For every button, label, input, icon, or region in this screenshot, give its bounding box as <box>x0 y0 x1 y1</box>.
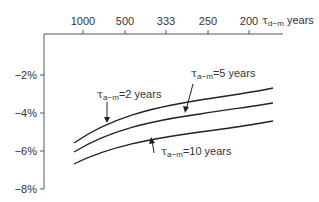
tick-label: 200 <box>240 15 258 27</box>
annotation-5-years: τa−m=5 years <box>191 67 256 81</box>
top-axis-label: τd−myears <box>262 14 314 28</box>
left-tick-labels: −2% −4% −6% −8% <box>15 69 38 195</box>
left-ticks <box>40 75 44 189</box>
annotation-2-years: τa−m=2 years <box>97 88 162 102</box>
chart: 1000 500 333 250 200 τd−myears −2% −4% −… <box>0 0 319 202</box>
tick-label: 333 <box>157 15 175 27</box>
tick-label: 500 <box>116 15 134 27</box>
tick-label: 1000 <box>71 15 95 27</box>
tick-label: −2% <box>15 69 38 81</box>
arrowhead-icon <box>104 117 110 123</box>
tick-label: −6% <box>15 145 38 157</box>
arrow-5-years <box>186 84 193 110</box>
annotation-10-years: τa−m=10 years <box>161 145 232 159</box>
top-ticks <box>83 30 249 34</box>
series-5-years <box>74 103 273 152</box>
tick-label: −4% <box>15 107 38 119</box>
tick-label: 250 <box>199 15 217 27</box>
arrowhead-icon <box>183 106 189 113</box>
top-tick-labels: 1000 500 333 250 200 <box>71 15 258 27</box>
tick-label: −8% <box>15 183 38 195</box>
